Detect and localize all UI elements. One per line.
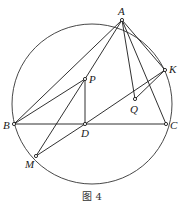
point-C [164,122,167,125]
label-A: A [117,5,125,17]
point-K [163,68,166,71]
label-Q: Q [130,103,138,115]
segment-DK [85,70,165,124]
point-A [120,18,123,21]
label-C: C [170,119,178,131]
segment-AB [14,20,122,124]
label-P: P [88,73,96,85]
segment-QK [135,70,165,99]
point-M [34,154,37,157]
segment-PM [36,79,85,156]
label-M: M [24,158,35,170]
segment-AP [85,20,122,79]
geometry-figure: A K P Q B D C M 图 4 [0,0,184,205]
segment-AK [122,20,165,70]
point-Q [133,97,136,100]
segment-MD [36,124,85,156]
figure-caption: 图 4 [82,191,102,202]
label-K: K [168,63,177,75]
segment-BP [14,79,85,124]
point-D [83,122,86,125]
segment-AQ [122,20,135,99]
point-P [83,77,86,80]
segment-AC [122,20,166,124]
label-D: D [80,127,89,139]
circumcircle [12,24,172,184]
label-B: B [3,119,10,131]
point-B [12,122,15,125]
